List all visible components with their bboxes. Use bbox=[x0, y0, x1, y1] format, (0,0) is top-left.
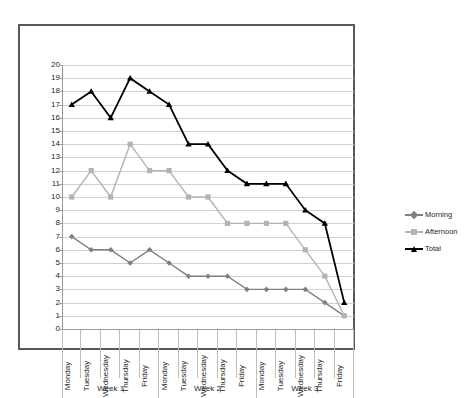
y-axis-tick-label: 5 bbox=[40, 259, 60, 267]
y-axis-tick-mark bbox=[59, 144, 62, 145]
y-axis-tick-label: 11 bbox=[40, 180, 60, 188]
y-axis-tick-mark bbox=[59, 289, 62, 290]
x-axis-day-cell: Monday bbox=[159, 330, 178, 378]
data-point bbox=[69, 194, 74, 199]
legend-label: Afternoon bbox=[425, 227, 458, 236]
x-axis-week-cell: Week 3 bbox=[257, 378, 354, 398]
data-point bbox=[186, 194, 191, 199]
legend-swatch-icon bbox=[405, 244, 423, 254]
y-axis-tick-mark bbox=[59, 105, 62, 106]
data-point bbox=[89, 168, 94, 173]
y-axis-tick-label: 18 bbox=[40, 87, 60, 95]
x-axis-week-labels: Week 1Week 2Week 3 bbox=[62, 378, 354, 398]
x-axis-day-cell: Wednesday bbox=[101, 330, 120, 378]
series-total bbox=[69, 75, 348, 305]
y-axis-tick-mark bbox=[59, 65, 62, 66]
y-axis-tick-label: 15 bbox=[40, 127, 60, 135]
y-axis-tick-label: 2 bbox=[40, 299, 60, 307]
x-axis-day-cell: Friday bbox=[335, 330, 354, 378]
x-axis-day-cell: Wednesday bbox=[296, 330, 315, 378]
data-point bbox=[225, 221, 230, 226]
data-point bbox=[88, 88, 94, 94]
chart-frame: 20191817161514131211109876543210 MondayT… bbox=[18, 24, 355, 350]
y-axis-tick-label: 16 bbox=[40, 114, 60, 122]
y-axis-tick-label: 6 bbox=[40, 246, 60, 254]
y-axis-tick-mark bbox=[59, 210, 62, 211]
y-axis-tick-mark bbox=[59, 131, 62, 132]
data-point bbox=[147, 168, 152, 173]
y-axis-tick-mark bbox=[59, 78, 62, 79]
data-point bbox=[166, 168, 171, 173]
x-axis-day-cell: Monday bbox=[257, 330, 276, 378]
data-point bbox=[283, 287, 289, 293]
y-axis-tick-mark bbox=[59, 118, 62, 119]
y-axis-tick-label: 19 bbox=[40, 74, 60, 82]
legend-swatch-icon bbox=[405, 210, 423, 220]
y-axis-tick-label: 0 bbox=[40, 325, 60, 333]
legend-label: Morning bbox=[425, 210, 452, 219]
series-morning bbox=[69, 234, 347, 319]
y-axis-tick-mark bbox=[59, 276, 62, 277]
data-point bbox=[205, 273, 211, 279]
y-axis-tick-labels: 20191817161514131211109876543210 bbox=[36, 26, 60, 352]
y-axis-tick-label: 8 bbox=[40, 219, 60, 227]
y-axis-tick-mark bbox=[59, 250, 62, 251]
y-axis-tick-mark bbox=[59, 303, 62, 304]
y-axis-tick-label: 7 bbox=[40, 233, 60, 241]
data-point bbox=[205, 194, 210, 199]
data-point bbox=[127, 75, 133, 81]
y-axis-tick-mark bbox=[59, 184, 62, 185]
x-axis-week-cell: Week 2 bbox=[159, 378, 256, 398]
y-axis-tick-mark bbox=[59, 197, 62, 198]
legend-item-total[interactable]: Total bbox=[405, 242, 467, 255]
data-point bbox=[264, 287, 270, 293]
y-axis-tick-mark bbox=[59, 171, 62, 172]
x-axis-day-cell: Thursday bbox=[218, 330, 237, 378]
x-axis-day-cell: Wednesday bbox=[198, 330, 217, 378]
y-axis-tick-mark bbox=[59, 157, 62, 158]
series-overlay bbox=[62, 65, 354, 329]
y-axis-tick-label: 10 bbox=[40, 193, 60, 201]
x-axis-day-cell: Tuesday bbox=[81, 330, 100, 378]
x-axis-day-cell: Thursday bbox=[315, 330, 334, 378]
x-axis-day-cell: Friday bbox=[140, 330, 159, 378]
data-point bbox=[128, 142, 133, 147]
y-axis-tick-label: 12 bbox=[40, 167, 60, 175]
legend-item-morning[interactable]: Morning bbox=[405, 208, 467, 221]
y-axis-tick-mark bbox=[59, 316, 62, 317]
legend-label: Total bbox=[425, 244, 441, 253]
y-axis-tick-label: 4 bbox=[40, 272, 60, 280]
x-axis-day-cell: Tuesday bbox=[276, 330, 295, 378]
x-axis-week-cell: Week 1 bbox=[62, 378, 159, 398]
data-point bbox=[283, 221, 288, 226]
y-axis-tick-label: 1 bbox=[40, 312, 60, 320]
x-axis-day-cell: Thursday bbox=[120, 330, 139, 378]
x-axis-day-labels: MondayTuesdayWednesdayThursdayFridayMond… bbox=[62, 330, 354, 378]
chart-legend: MorningAfternoonTotal bbox=[405, 208, 467, 259]
y-axis-tick-label: 13 bbox=[40, 153, 60, 161]
x-axis-day-cell: Friday bbox=[237, 330, 256, 378]
data-point bbox=[322, 274, 327, 279]
legend-swatch-icon bbox=[405, 227, 423, 237]
y-axis-tick-mark bbox=[59, 223, 62, 224]
y-axis-tick-mark bbox=[59, 329, 62, 330]
data-point bbox=[342, 313, 347, 318]
x-axis-day-cell: Monday bbox=[62, 330, 81, 378]
legend-item-afternoon[interactable]: Afternoon bbox=[405, 225, 467, 238]
y-axis-tick-label: 3 bbox=[40, 285, 60, 293]
y-axis-tick-mark bbox=[59, 237, 62, 238]
data-point bbox=[108, 194, 113, 199]
y-axis-tick-label: 9 bbox=[40, 206, 60, 214]
y-axis-tick-mark bbox=[59, 263, 62, 264]
data-point bbox=[244, 221, 249, 226]
y-axis-tick-label: 14 bbox=[40, 140, 60, 148]
data-point bbox=[264, 221, 269, 226]
data-point bbox=[303, 247, 308, 252]
data-point bbox=[341, 299, 347, 305]
y-axis-tick-label: 20 bbox=[40, 61, 60, 69]
x-axis-day-cell: Tuesday bbox=[179, 330, 198, 378]
y-axis-tick-label: 17 bbox=[40, 101, 60, 109]
y-axis-tick-mark bbox=[59, 91, 62, 92]
